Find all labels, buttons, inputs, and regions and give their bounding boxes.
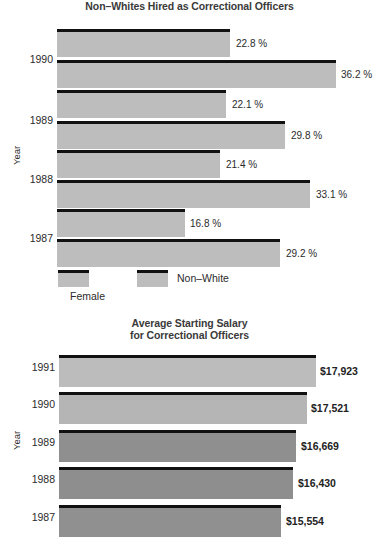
chart1-year-label-1990: 1990 bbox=[0, 53, 53, 65]
bar-value-1990-salary: $17,521 bbox=[311, 402, 349, 414]
bar-value-1987-female: 16.8 % bbox=[190, 218, 221, 229]
chart2-year-label-1991: 1991 bbox=[0, 361, 55, 373]
bar-value-1987-nonwhite: 29.2 % bbox=[286, 248, 317, 259]
bar-1990-salary bbox=[59, 392, 307, 424]
legend-swatch-female bbox=[58, 270, 89, 287]
chart1-title: Non–Whites Hired as Correctional Officer… bbox=[0, 1, 379, 13]
chart-average-starting-salary: Average Starting Salary for Correctional… bbox=[0, 305, 379, 543]
bar-value-1989-salary: $16,669 bbox=[301, 440, 339, 452]
bar-body bbox=[57, 32, 230, 57]
bar-value-1988-salary: $16,430 bbox=[298, 477, 336, 489]
chart2-year-label-1990: 1990 bbox=[0, 398, 55, 410]
bar-1987-nonwhite bbox=[57, 239, 280, 267]
legend-swatch-body bbox=[137, 273, 168, 287]
chart2-title-line1: Average Starting Salary bbox=[0, 318, 379, 330]
bar-body bbox=[57, 124, 285, 149]
bar-body bbox=[57, 212, 185, 237]
bar-body bbox=[57, 153, 220, 178]
legend-label-female: Female bbox=[70, 290, 105, 302]
bar-body bbox=[57, 93, 226, 118]
legend-swatch-nonwhite bbox=[137, 270, 168, 287]
chart1-year-label-1987: 1987 bbox=[0, 232, 53, 244]
legend-swatch-body bbox=[58, 273, 89, 287]
bar-body bbox=[57, 63, 336, 88]
legend-label-nonwhite: Non–White bbox=[177, 272, 229, 284]
bar-body bbox=[59, 358, 316, 387]
chart2-year-label-1989: 1989 bbox=[0, 436, 55, 448]
chart2-title-line2: for Correctional Officers bbox=[0, 330, 379, 342]
bar-1989-female bbox=[57, 90, 226, 118]
bar-1990-female bbox=[57, 29, 230, 57]
chart1-year-label-1989: 1989 bbox=[0, 114, 53, 126]
bar-1987-female bbox=[57, 209, 185, 237]
bar-1987-salary bbox=[59, 505, 281, 537]
chart1-axis-label-year: Year bbox=[11, 146, 22, 165]
bar-1988-nonwhite bbox=[57, 180, 310, 208]
bar-body bbox=[59, 470, 293, 499]
bar-1989-nonwhite bbox=[57, 121, 285, 149]
bar-body bbox=[59, 508, 281, 537]
chart2-year-label-1987: 1987 bbox=[0, 511, 55, 523]
bar-value-1990-nonwhite: 36.2 % bbox=[341, 69, 372, 80]
bar-value-1991-salary: $17,923 bbox=[320, 365, 358, 377]
chart-nonwhites-hired: Non–Whites Hired as Correctional Officer… bbox=[0, 0, 379, 305]
bar-1988-salary bbox=[59, 467, 293, 499]
bar-body bbox=[57, 183, 310, 208]
bar-body bbox=[59, 395, 307, 424]
bar-body bbox=[57, 242, 280, 267]
bar-value-1988-female: 21.4 % bbox=[226, 159, 257, 170]
bar-1991-salary bbox=[59, 355, 316, 387]
chart1-year-label-1988: 1988 bbox=[0, 173, 53, 185]
bar-value-1988-nonwhite: 33.1 % bbox=[316, 189, 347, 200]
bar-body bbox=[59, 433, 296, 462]
bar-value-1990-female: 22.8 % bbox=[236, 38, 267, 49]
bar-1990-nonwhite bbox=[57, 60, 336, 88]
chart2-year-label-1988: 1988 bbox=[0, 473, 55, 485]
bar-value-1987-salary: $15,554 bbox=[286, 515, 324, 527]
bar-value-1989-female: 22.1 % bbox=[232, 99, 263, 110]
bar-value-1989-nonwhite: 29.8 % bbox=[291, 130, 322, 141]
bar-1989-salary bbox=[59, 430, 296, 462]
bar-1988-female bbox=[57, 150, 220, 178]
